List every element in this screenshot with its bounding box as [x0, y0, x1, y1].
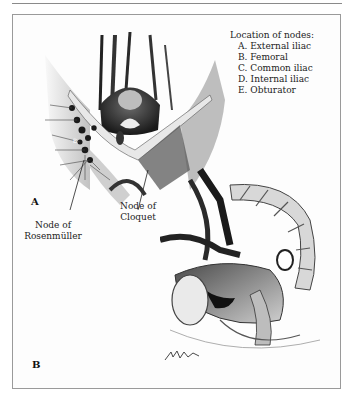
callout-rosenmuller-line2: Rosenmüller	[22, 231, 84, 242]
callout-node-of-rosenmuller: Node of Rosenmüller	[22, 220, 84, 242]
legend-item-external-iliac: A. External iliac	[230, 41, 314, 52]
illustration-b-sagittal-pelvis	[160, 160, 345, 360]
artist-signature	[163, 348, 203, 362]
legend-item-femoral: B. Femoral	[230, 52, 314, 63]
callout-cloquet-line1: Node of	[112, 201, 164, 212]
legend-item-internal-iliac: D. Internal iliac	[230, 74, 314, 85]
callout-rosenmuller-line1: Node of	[22, 220, 84, 231]
legend-item-common-iliac: C. Common iliac	[230, 63, 314, 74]
legend-item-obturator: E. Obturator	[230, 85, 314, 96]
node-marker-b: B	[73, 137, 77, 144]
legend-title: Location of nodes:	[230, 30, 314, 41]
node-location-legend: Location of nodes: A. External iliac B. …	[230, 30, 314, 96]
panel-label-a: A	[31, 196, 39, 207]
top-rule	[12, 3, 342, 4]
callout-node-of-cloquet: Node of Cloquet	[112, 201, 164, 223]
panel-label-b: B	[32, 359, 40, 370]
callout-cloquet-line2: Cloquet	[112, 212, 164, 223]
